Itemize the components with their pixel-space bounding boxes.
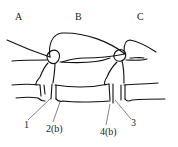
callout-3: 3 bbox=[131, 118, 136, 128]
callout-2b: 2(b) bbox=[46, 124, 63, 134]
section-label-b: B bbox=[75, 12, 82, 22]
section-label-c: C bbox=[137, 12, 144, 22]
callout-1: 1 bbox=[24, 120, 29, 130]
section-label-a: A bbox=[15, 12, 22, 22]
vertebral-joint-diagram: A B C 1 2(b) 4(b) 3 bbox=[0, 0, 178, 147]
callout-4b: 4(b) bbox=[100, 127, 117, 137]
